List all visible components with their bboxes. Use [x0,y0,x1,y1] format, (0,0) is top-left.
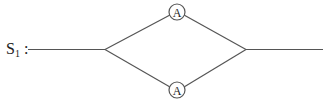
circuit-graphic: A A [0,0,327,103]
parallel-system-diagram: S1 : A A [0,0,327,103]
branch-bottom-left [105,50,170,88]
component-bottom: A [169,82,185,98]
branch-bottom-right [184,50,246,88]
branch-top-left [105,15,170,50]
component-top: A [169,4,185,20]
branch-top-right [184,15,246,50]
component-top-label: A [173,6,182,20]
component-bottom-label: A [173,84,182,98]
